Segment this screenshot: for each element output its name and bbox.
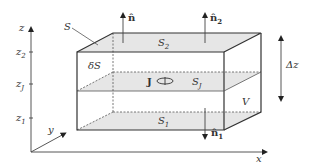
thickness-label: Δz xyxy=(285,59,299,70)
y-axis-label: y xyxy=(47,124,54,135)
volume-label: V xyxy=(242,96,251,107)
side-surface-label: δS xyxy=(88,60,101,71)
pillbox-diagram: z x y z2 zJ z1 S n̂ n̂2 n̂1 S2 SJ S1 δS … xyxy=(0,0,310,163)
z1-label: z1 xyxy=(15,112,26,126)
x-axis-label: x xyxy=(256,153,262,163)
z2-label: z2 xyxy=(15,46,26,60)
current-label: J xyxy=(146,76,152,87)
normal-label: n̂ xyxy=(128,12,136,23)
normal-top-label: n̂2 xyxy=(210,12,222,26)
z-axis-label: z xyxy=(18,22,25,33)
surface-leader-line xyxy=(72,28,98,45)
surface-s-label: S xyxy=(64,21,71,32)
y-axis xyxy=(31,134,64,152)
zj-label: zJ xyxy=(15,78,25,92)
middle-face-sj xyxy=(77,72,261,91)
